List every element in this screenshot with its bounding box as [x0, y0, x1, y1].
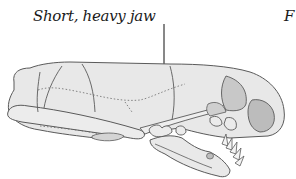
- auditory-bulla: [92, 133, 124, 141]
- tooth-process: [176, 126, 186, 135]
- skull-illustration: [0, 0, 296, 179]
- mandible: [150, 136, 230, 177]
- mental-foramen: [207, 153, 214, 159]
- jaw-joint: [149, 125, 172, 137]
- teeth: [222, 134, 244, 166]
